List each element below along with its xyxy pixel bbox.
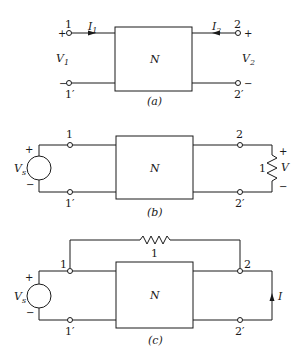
two-port-network-diagram: 1 1′ 2 2′ + − + − I1 I2 V1 V2 N (a) 1 1′… xyxy=(0,0,302,363)
source-plus: + xyxy=(25,144,33,155)
wire-source-top xyxy=(39,271,68,284)
wire-source-bottom xyxy=(39,180,68,192)
terminal-2-prime xyxy=(238,318,243,323)
terminal-2-prime xyxy=(236,81,241,86)
caption-b: (b) xyxy=(147,206,163,219)
label-terminal-2: 2 xyxy=(244,258,251,271)
voltage-source-icon xyxy=(27,284,51,308)
source-plus: + xyxy=(25,272,33,283)
sign-plus-right: + xyxy=(244,28,252,39)
panel-c: 1 1′ 2 2′ 1 + − Vs I N (c) xyxy=(14,236,283,347)
terminal-2 xyxy=(238,143,243,148)
terminal-2 xyxy=(236,31,241,36)
label-terminal-2-prime: 2′ xyxy=(235,325,245,338)
label-terminal-2-prime: 2′ xyxy=(234,88,244,101)
current-I2: I2 xyxy=(211,20,221,35)
sign-minus-left: − xyxy=(59,78,67,89)
current-label-I: I xyxy=(277,290,283,303)
voltage-source-icon xyxy=(27,156,51,180)
label-terminal-1-prime: 1′ xyxy=(65,88,75,101)
sign-plus-left: + xyxy=(58,28,66,39)
label-terminal-1-prime: 1′ xyxy=(65,325,75,338)
sign-minus-right: − xyxy=(244,78,252,89)
wire-source-top xyxy=(39,145,68,156)
current-arrow-up-icon xyxy=(270,293,275,301)
label-terminal-1: 1 xyxy=(66,128,73,141)
short-circuit-wire xyxy=(242,271,272,320)
terminal-1-prime xyxy=(68,318,73,323)
terminal-1 xyxy=(68,143,73,148)
panel-a: 1 1′ 2 2′ + − + − I1 I2 V1 V2 N (a) xyxy=(56,18,255,108)
network-label: N xyxy=(149,53,160,66)
terminal-1 xyxy=(67,31,72,36)
terminal-1 xyxy=(68,269,73,274)
voltage-V2: V2 xyxy=(242,52,255,67)
label-terminal-1-prime: 1′ xyxy=(65,197,75,210)
caption-c: (c) xyxy=(148,334,163,347)
source-minus: − xyxy=(26,307,34,318)
load-plus: + xyxy=(279,146,287,157)
label-terminal-2-prime: 2′ xyxy=(235,197,245,210)
network-label: N xyxy=(149,289,160,302)
panel-b: 1 1′ 2 2′ + − Vs 1 V + − N (b) xyxy=(14,128,290,219)
source-label-Vs: Vs xyxy=(14,290,26,305)
terminal-1-prime xyxy=(68,190,73,195)
bridge-resistor-value: 1 xyxy=(151,247,158,260)
current-I1: I1 xyxy=(87,20,97,35)
wire-source-bottom xyxy=(39,308,68,320)
caption-a: (a) xyxy=(147,95,162,108)
terminal-2-prime xyxy=(238,190,243,195)
source-minus: − xyxy=(26,179,34,190)
load-voltage-V: V xyxy=(281,161,290,174)
label-terminal-2: 2 xyxy=(234,18,241,31)
load-minus: − xyxy=(279,181,287,192)
terminal-2 xyxy=(238,269,243,274)
network-label: N xyxy=(149,162,160,175)
load-value: 1 xyxy=(259,162,266,175)
label-terminal-1: 1 xyxy=(60,258,67,271)
label-terminal-2: 2 xyxy=(236,128,243,141)
voltage-V1: V1 xyxy=(56,52,69,67)
source-label-Vs: Vs xyxy=(14,162,26,177)
